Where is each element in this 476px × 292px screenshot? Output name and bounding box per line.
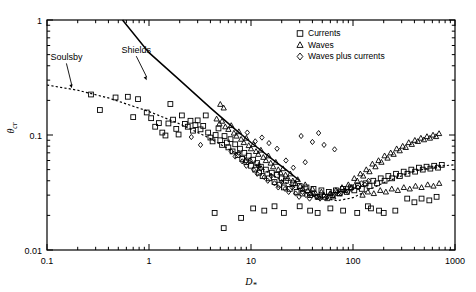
y-tick-label: 0.1 (29, 131, 42, 141)
annotation-label-shields: Shields (121, 45, 151, 55)
shields-diagram-chart: 0.111010010000.010.11 ShieldsSoulsby Cur… (0, 0, 476, 292)
legend-label: Waves (308, 40, 334, 50)
annotation-label-soulsby: Soulsby (50, 52, 83, 62)
x-tick-label: 1000 (445, 256, 465, 266)
y-label-subscript: cr (10, 122, 19, 128)
y-tick-label: 0.01 (24, 246, 42, 256)
legend-item-waves-plus-currents: Waves plus currents (297, 51, 385, 61)
y-tick-label: 1 (37, 16, 42, 26)
legend-label: Waves plus currents (308, 51, 385, 61)
x-label-subscript: * (252, 280, 257, 290)
figure-container: 0.111010010000.010.11 ShieldsSoulsby Cur… (0, 0, 476, 292)
x-tick-label: 0.1 (41, 256, 54, 266)
x-tick-label: 100 (345, 256, 360, 266)
x-tick-label: 10 (246, 256, 256, 266)
x-tick-label: 1 (146, 256, 151, 266)
legend-label: Currents (308, 28, 341, 38)
